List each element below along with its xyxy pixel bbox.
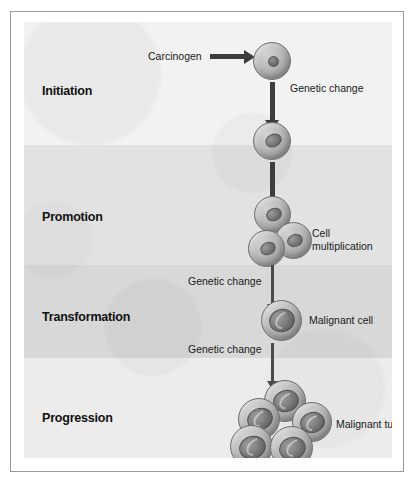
nucleus-multiplied-bottom: [258, 239, 278, 258]
stage-label-promotion: Promotion: [42, 210, 103, 224]
cell-initiated: [253, 122, 291, 160]
genetic-change-arrow-1-shaft: [270, 82, 275, 120]
promotion-arrow-shaft: [270, 162, 275, 200]
cell-normal: [253, 42, 291, 80]
genetic-change-arrow-2-shaft: [271, 265, 274, 304]
annotation-carcinogen: Carcinogen: [148, 50, 202, 63]
annotation-genetic-change-1: Genetic change: [290, 82, 364, 95]
annotation-genetic-change-2: Genetic change: [188, 275, 262, 288]
nucleus-initiated: [263, 131, 284, 150]
genetic-change-arrow-3-shaft: [271, 343, 274, 381]
stage-label-initiation: Initiation: [42, 84, 92, 98]
band-progression: [24, 358, 392, 458]
nucleus-multiplied-top: [264, 205, 284, 223]
illustration-panel: Initiation Promotion Transformation Prog…: [24, 22, 392, 458]
carcinogen-arrow-shaft: [210, 54, 244, 59]
carcinogenesis-figure: Initiation Promotion Transformation Prog…: [0, 0, 416, 494]
nucleus-malignant: [266, 306, 298, 336]
annotation-cell-multiplication: Cell multiplication: [312, 227, 382, 252]
nucleus-normal: [268, 56, 279, 67]
nucleus-multiplied-right: [285, 232, 304, 250]
stage-label-transformation: Transformation: [42, 310, 130, 324]
cell-malignant: [261, 300, 302, 341]
cell-multiplied-bottom: [248, 230, 285, 267]
annotation-malignant-cell: Malignant cell: [309, 314, 373, 327]
nucleus-tumor-bottom-right: [276, 434, 309, 458]
annotation-malignant-tumor: Malignant tumor: [336, 418, 392, 431]
nucleus-tumor-bottom-left: [236, 432, 269, 458]
stage-label-progression: Progression: [42, 411, 113, 425]
annotation-genetic-change-3: Genetic change: [188, 343, 262, 356]
